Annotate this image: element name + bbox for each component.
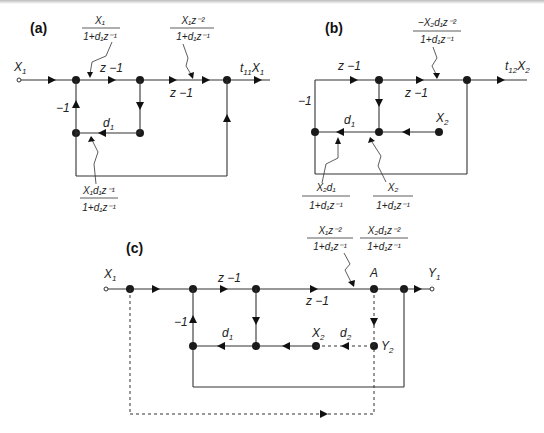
input-x2-label: X2	[435, 111, 449, 127]
panel-a: (a) X1 z −1 z −1 −1 d1 t11X1 X₁	[13, 15, 270, 213]
arrow-left-icon	[98, 129, 106, 137]
node-y2-label: Y2	[381, 339, 394, 355]
input-label: X1	[103, 267, 116, 283]
arrow-up-icon	[72, 100, 80, 108]
arrow-left-icon	[402, 128, 410, 136]
gain-z-inv: z −1	[404, 86, 428, 100]
gain-d1: d1	[344, 113, 355, 129]
node-a-label: A	[369, 266, 378, 280]
gain-d1: d1	[103, 116, 114, 132]
node-x2-label: X2	[311, 326, 325, 342]
arrow-icon	[108, 76, 116, 84]
gain-z-inv: z −1	[169, 86, 193, 100]
annotation-denominator: 1+d₁z⁻¹	[83, 31, 117, 42]
gain-z-inv: z −1	[337, 59, 361, 73]
annotation-denominator: 1+d₁z⁻¹	[82, 202, 116, 213]
input-label: X1	[13, 60, 26, 76]
arrow-icon	[497, 76, 505, 84]
panel-b-label: (b)	[325, 20, 343, 36]
gain-d2: d2	[340, 326, 352, 342]
annotation-numerator: X₁	[94, 15, 105, 26]
gain-d1: d1	[222, 326, 233, 342]
panel-a-label: (a)	[30, 20, 47, 36]
annotation-denominator: 1+d₁z⁻¹	[309, 200, 343, 211]
annotation-numerator: X₂d₁	[315, 182, 335, 193]
annotation-numerator: X₁d₁z⁻¹	[82, 185, 116, 196]
annotation-denominator: 1+d₁z⁻¹	[176, 31, 210, 42]
arrow-icon	[169, 76, 177, 84]
panel-c-label: (c)	[126, 240, 143, 256]
signal-flow-diagram: (a) X1 z −1 z −1 −1 d1 t11X1 X₁	[0, 0, 544, 433]
annotation-numerator: −X₂d₁z⁻²	[418, 17, 457, 28]
annotation-denominator: 1+d₁z⁻¹	[367, 241, 401, 252]
gain-z-inv: z −1	[305, 294, 329, 308]
annotation-denominator: 1+d₁z⁻¹	[376, 200, 410, 211]
output-label: t11X1	[240, 61, 264, 77]
annotation-denominator: 1+d₁z⁻¹	[420, 34, 454, 45]
panel-c: (c) X1 Y1 A	[103, 225, 440, 418]
arrow-icon	[416, 76, 424, 84]
panel-b: (b) z −1 z −1 −1 d1 X2 t12X2 −X₂d₁z⁻² 1+…	[298, 17, 530, 211]
arrow-icon	[202, 76, 210, 84]
arrow-down-icon	[136, 102, 144, 110]
arrow-down-icon	[375, 99, 383, 107]
arrow-icon	[48, 76, 56, 84]
output-label: t12X2	[505, 59, 530, 75]
output-label: Y1	[428, 266, 440, 282]
gain-z-inv: z −1	[217, 271, 241, 285]
arrow-icon	[350, 76, 358, 84]
arrow-icon	[254, 76, 262, 84]
annotation-numerator: X₂d₁z⁻²	[367, 225, 401, 236]
input-node-x1	[17, 78, 21, 82]
annotation-numerator: X₁z⁻²	[180, 15, 205, 26]
gain-neg-one: −1	[56, 101, 70, 115]
annotation-numerator: X₂	[387, 182, 399, 193]
arrow-left-icon	[336, 128, 344, 136]
annotation-numerator: X₁z⁻²	[317, 225, 342, 236]
annotation-denominator: 1+d₁z⁻¹	[313, 241, 347, 252]
gain-z-inv: z −1	[99, 61, 123, 75]
arrow-up-icon	[223, 114, 231, 122]
gain-neg-one: −1	[174, 315, 188, 329]
gain-neg-one: −1	[298, 94, 312, 108]
